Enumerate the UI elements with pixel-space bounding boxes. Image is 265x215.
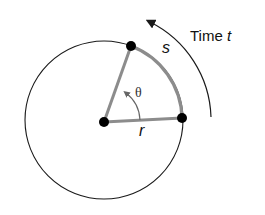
top-point: [126, 41, 136, 51]
arc-length-label: s: [162, 40, 170, 56]
arc-s: [131, 46, 182, 118]
time-label: Time t: [190, 28, 231, 43]
radius-line-top: [104, 46, 131, 122]
radius-label: r: [139, 123, 144, 139]
time-prefix: Time: [190, 27, 223, 44]
angle-label: θ: [135, 86, 142, 100]
center-point: [99, 117, 109, 127]
diagram-canvas: Time t s θ r: [0, 0, 265, 215]
right-point: [177, 113, 187, 123]
time-variable: t: [227, 27, 231, 44]
